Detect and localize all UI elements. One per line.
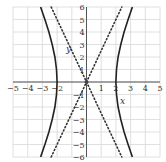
x-tick-label: 4 <box>143 84 148 93</box>
y-tick-label: −5 <box>73 141 85 150</box>
y-tick-label: −6 <box>73 153 85 162</box>
y-tick-label: 6 <box>79 3 84 12</box>
x-tick-label: −5 <box>7 84 19 93</box>
x-axis-label: x <box>120 96 125 106</box>
y-tick-label: 3 <box>79 41 84 50</box>
x-tick-label: 1 <box>99 84 104 93</box>
y-tick-label: −3 <box>73 116 85 125</box>
center-point <box>85 80 89 84</box>
x-tick-label: −4 <box>22 84 34 93</box>
y-tick-label: 5 <box>79 16 84 25</box>
y-tick-label: 4 <box>79 28 84 37</box>
hyperbola-chart: −5−4−3−212345654321−1−2−3−4−5−6 x y <box>0 0 166 162</box>
x-tick-label: 3 <box>128 84 133 93</box>
x-tick-label: 5 <box>157 84 162 93</box>
y-tick-label: −4 <box>73 128 85 137</box>
x-tick-label: −3 <box>37 84 49 93</box>
y-axis-label: y <box>65 44 72 54</box>
y-tick-label: 2 <box>79 53 84 62</box>
